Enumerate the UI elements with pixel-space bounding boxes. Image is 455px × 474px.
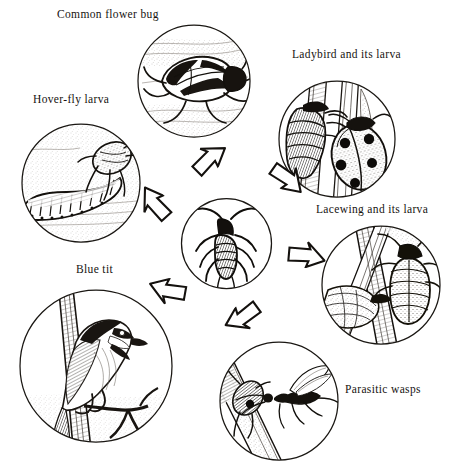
aphid-predators-diagram: Common flower bug Ladybird and its larva… (0, 0, 455, 474)
node-parasitic-wasps (218, 340, 340, 462)
label-parasitic-wasps: Parasitic wasps (345, 383, 421, 395)
node-hover-fly-larva (20, 122, 142, 244)
arrow-flower-bug-to-centre (184, 134, 232, 182)
node-lacewing (320, 224, 442, 346)
node-common-flower-bug (136, 23, 252, 139)
label-hover-fly-larva: Hover-fly larva (33, 93, 109, 105)
node-aphid-centre (180, 197, 273, 290)
arrow-lacewing-to-centre (285, 238, 327, 269)
label-lacewing: Lacewing and its larva (316, 203, 428, 215)
label-common-flower-bug: Common flower bug (57, 8, 159, 20)
label-blue-tit: Blue tit (76, 263, 113, 275)
label-ladybird: Ladybird and its larva (292, 48, 401, 60)
arrow-wasps-to-centre (220, 295, 269, 341)
node-blue-tit (18, 288, 175, 445)
